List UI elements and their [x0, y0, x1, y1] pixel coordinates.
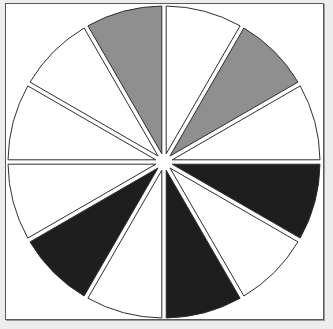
wheel-segments [8, 6, 320, 318]
segmented-wheel [0, 0, 333, 329]
